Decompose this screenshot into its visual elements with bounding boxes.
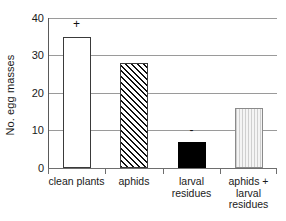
bar-aphids[interactable]	[120, 63, 148, 168]
x-label-line: clean plants	[48, 176, 105, 188]
bar-slot-aphids	[105, 18, 163, 168]
x-tick-3	[220, 169, 221, 174]
x-axis-labels: clean plants aphids larval residues aphi…	[48, 176, 277, 221]
x-tick-1	[105, 169, 106, 174]
bar-aphids-plus-larval-residues[interactable]	[235, 108, 263, 168]
bar-slot-larval-residues: -	[163, 18, 220, 168]
y-tick-label-40: 40	[22, 13, 44, 24]
y-tick-label-30: 30	[22, 50, 44, 61]
y-axis-tick-labels: 40 30 20 10 0	[18, 0, 44, 221]
bar-clean-plants[interactable]	[63, 37, 91, 168]
y-tick-label-0: 0	[22, 163, 44, 174]
x-label-aphids: aphids	[105, 176, 163, 188]
y-axis-title: No. egg masses	[2, 10, 18, 180]
x-tick-4	[276, 169, 277, 174]
x-label-line: aphids	[105, 176, 163, 188]
y-tick-label-10: 10	[22, 125, 44, 136]
x-tick-0	[48, 169, 49, 174]
x-label-line: residues	[163, 188, 220, 200]
x-axis-ticks	[48, 169, 277, 174]
x-label-line: residues	[220, 199, 277, 211]
bar-slot-aphids-plus-larval-residues	[220, 18, 277, 168]
x-label-clean-plants: clean plants	[48, 176, 105, 188]
bar-chart: No. egg masses 40 30 20 10 0 + -	[0, 0, 286, 221]
bars-layer: + -	[48, 18, 277, 168]
x-label-larval-residues: larval residues	[163, 176, 220, 199]
bar-larval-residues[interactable]	[178, 142, 206, 168]
bar-annotation-minus: -	[190, 124, 194, 136]
x-tick-2	[163, 169, 164, 174]
x-label-line: aphids +	[220, 176, 277, 188]
x-label-line: larval	[163, 176, 220, 188]
y-tick-label-20: 20	[22, 88, 44, 99]
x-label-aphids-plus-larval-residues: aphids + larval residues	[220, 176, 277, 211]
bar-annotation-plus: +	[73, 18, 80, 30]
bar-slot-clean-plants: +	[48, 18, 105, 168]
